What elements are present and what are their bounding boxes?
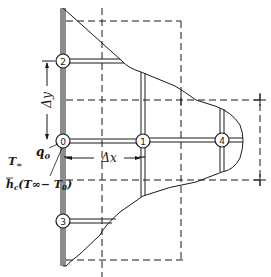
svg-text:4: 4 — [219, 136, 225, 146]
node-2: 2 — [56, 54, 70, 68]
svg-text:0: 0 — [60, 137, 66, 147]
node-0: 0 — [56, 134, 70, 148]
svg-text:2: 2 — [60, 57, 66, 67]
delta-y-label: Δy — [40, 92, 54, 109]
hc-expression-label: hc(T∞− T0) — [6, 178, 72, 192]
delta-x-label: Δx — [100, 151, 117, 165]
node-1: 1 — [136, 134, 150, 148]
svg-text:3: 3 — [60, 217, 66, 227]
t-inf-label: T∞ — [8, 155, 22, 169]
q0-leader — [49, 144, 58, 148]
node-4: 4 — [215, 133, 229, 147]
node-3: 3 — [56, 214, 70, 228]
q0-label: q0 — [36, 145, 50, 161]
nodal-network-diagram: 0 1 2 3 4 Δy Δx q0 T∞ hc(T — [0, 0, 271, 277]
hc-leader — [50, 148, 62, 176]
svg-text:1: 1 — [140, 137, 146, 147]
